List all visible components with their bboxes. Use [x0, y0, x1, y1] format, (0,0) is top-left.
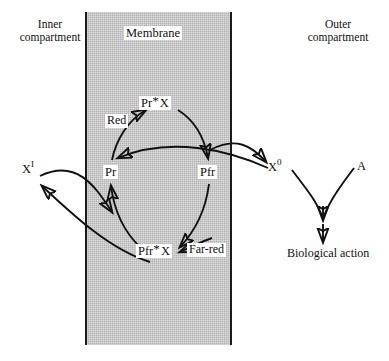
node-pfr-star-x-partner: X	[161, 244, 170, 258]
node-pfr-star-x: Pfr* X	[136, 244, 172, 258]
label-far-red-light: Far-red	[187, 243, 226, 257]
inner-compartment-line2: compartment	[14, 31, 86, 44]
node-pr-star-x-marker: *	[152, 93, 159, 108]
node-a: A	[357, 159, 366, 173]
node-pfr: Pfr	[198, 165, 217, 179]
arrow-pfr-to-xouter	[210, 143, 266, 162]
node-pr: Pr	[103, 165, 118, 179]
node-pr-star-x-partner: X	[160, 96, 169, 110]
node-pr-star-x-base: Pr	[141, 96, 152, 110]
node-x-outer-superscript: 0	[277, 157, 282, 167]
label-red-light: Red	[105, 114, 128, 128]
label-membrane: Membrane	[124, 26, 182, 40]
diagram-canvas: Inner compartment Outer compartment Memb…	[0, 0, 389, 361]
inner-compartment-line1: Inner	[14, 18, 86, 31]
arrow-xouter-to-junction	[292, 170, 322, 216]
node-x-inner-base: X	[22, 162, 31, 176]
arrow-a-to-junction	[324, 168, 354, 216]
arrow-xinner-to-cycle	[40, 171, 112, 212]
label-inner-compartment: Inner compartment	[14, 18, 86, 44]
arrow-to-xinner	[42, 186, 150, 262]
node-x-inner-superscript: I	[31, 159, 34, 169]
outer-compartment-line2: compartment	[300, 31, 376, 44]
arrow-pfr-to-pfrx	[180, 184, 209, 247]
label-biological-action: Biological action	[287, 247, 369, 261]
arrow-layer	[0, 0, 389, 361]
node-x-outer-base: X	[268, 160, 277, 174]
arrow-pfrx-to-pr	[111, 186, 141, 248]
label-outer-compartment: Outer compartment	[300, 18, 376, 44]
arrow-xouter-to-pr	[118, 147, 268, 168]
outer-compartment-line1: Outer	[300, 18, 376, 31]
node-x-outer: X0	[268, 160, 282, 174]
node-x-inner: XI	[22, 162, 34, 176]
node-pfr-star-x-marker: *	[153, 241, 160, 256]
node-pr-star-x: Pr* X	[139, 96, 171, 110]
arrow-prx-to-pfr	[178, 110, 208, 158]
node-pfr-star-x-base: Pfr	[138, 244, 153, 258]
